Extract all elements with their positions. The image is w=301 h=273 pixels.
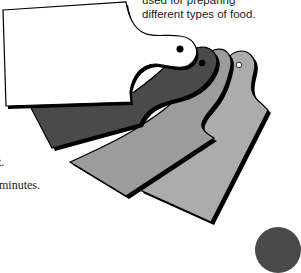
caption-line-2: different types of food. bbox=[142, 7, 282, 21]
body-text-line-1: meat. bbox=[0, 155, 4, 170]
caption-text: used for preparing different types of fo… bbox=[142, 0, 282, 21]
body-text-line-2: two minutes. bbox=[0, 178, 40, 193]
corner-badge bbox=[255, 227, 301, 273]
caption-line-1: used for preparing bbox=[142, 0, 282, 7]
